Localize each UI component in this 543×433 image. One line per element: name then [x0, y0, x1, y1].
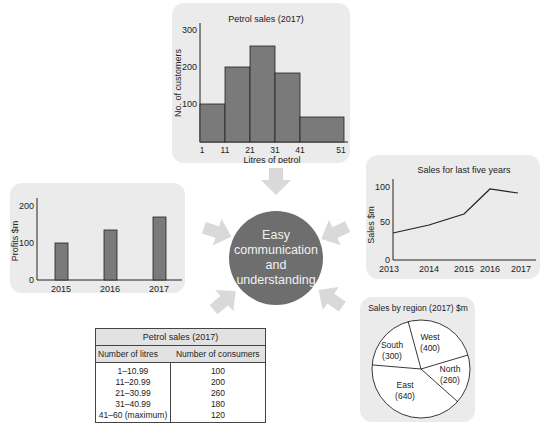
x-tick: 2016: [100, 284, 120, 293]
pie-label-west: West: [420, 332, 440, 342]
histogram-bar: [250, 46, 275, 142]
x-tick: 2016: [480, 264, 500, 274]
line-chart-title: Sales for last five years: [417, 165, 511, 175]
table-header-litres: Number of litres: [96, 346, 171, 363]
y-tick: 100: [19, 238, 34, 248]
hub-line: communication: [234, 243, 318, 258]
line-chart-ylabel: Sales $m: [366, 206, 376, 244]
bar-chart-panel: 0 100 200 Profits $m 2015 2016 2017: [10, 183, 185, 293]
hub-line: and: [266, 258, 287, 273]
histogram-xlabel: Litres of petrol: [243, 155, 300, 163]
pie-value-west: (400): [420, 343, 440, 353]
histogram-bar: [300, 117, 344, 142]
y-tick: 0: [29, 275, 34, 285]
bar-2016: [104, 230, 117, 280]
table-cell: 200: [170, 377, 265, 388]
y-tick: 50: [380, 217, 390, 227]
table-row: 41–60 (maximum) 120: [96, 410, 266, 423]
table-row: 1–10.99 100: [96, 363, 266, 377]
x-tick: 11: [221, 145, 230, 155]
hub-line: understanding: [236, 273, 315, 288]
histogram-bar: [200, 104, 225, 142]
pie-value-north: (260): [440, 375, 460, 385]
histogram-panel: Petrol sales (2017) 100 200 300 No. of c…: [172, 3, 350, 163]
pie-label-north: North: [440, 364, 461, 374]
central-hub: Easy communication and understanding: [229, 211, 323, 305]
y-tick: 100: [182, 99, 197, 109]
histogram-ylabel: No. of customers: [173, 48, 183, 117]
histogram-chart: Petrol sales (2017) 100 200 300 No. of c…: [172, 3, 350, 163]
pie-value-south: (300): [382, 351, 402, 361]
x-tick: 2015: [51, 284, 71, 293]
pie-label-east: East: [396, 380, 414, 390]
sales-line: [393, 189, 518, 233]
histogram-bar: [225, 67, 250, 142]
petrol-sales-table: Petrol sales (2017) Number of litres Num…: [95, 328, 266, 423]
table-cell: 180: [170, 399, 265, 410]
table-cell: 21–30.99: [96, 388, 171, 399]
line-chart: Sales for last five years 0 50 100 Sales…: [366, 155, 540, 279]
table-header-consumers: Number of consumers: [170, 346, 265, 363]
bar-2017: [153, 217, 166, 280]
arrow-down-icon: [261, 168, 291, 195]
table-cell: 11–20.99: [96, 377, 171, 388]
table-cell: 260: [170, 388, 265, 399]
pie-chart-title: Sales by region (2017) $m: [368, 303, 468, 313]
y-tick: 200: [19, 201, 34, 211]
x-tick: 2014: [419, 264, 439, 274]
table-cell: 41–60 (maximum): [96, 410, 171, 423]
pie-chart: Sales by region (2017) $m West (400) Nor…: [360, 297, 475, 422]
table-title: Petrol sales (2017): [96, 329, 266, 346]
hub-line: Easy: [262, 228, 290, 243]
x-tick: 2013: [379, 264, 399, 274]
bar-2015: [55, 243, 68, 280]
x-tick: 2015: [454, 264, 474, 274]
x-tick: 2017: [149, 284, 169, 293]
table-cell: 120: [170, 410, 265, 423]
bar-chart-ylabel: Profits $m: [10, 221, 20, 262]
pie-label-south: South: [381, 340, 403, 350]
x-tick: 1: [200, 145, 205, 155]
x-tick: 31: [270, 145, 280, 155]
table-row: 21–30.99 260: [96, 388, 266, 399]
x-tick: 21: [245, 145, 255, 155]
table-cell: 100: [170, 363, 265, 377]
table-cell: 31–40.99: [96, 399, 171, 410]
pie-chart-panel: Sales by region (2017) $m West (400) Nor…: [360, 297, 475, 422]
arrow-up-left-icon: [311, 279, 351, 319]
table-row: 11–20.99 200: [96, 377, 266, 388]
x-tick: 2017: [511, 264, 531, 274]
y-tick: 100: [375, 182, 390, 192]
x-tick: 41: [295, 145, 305, 155]
y-tick: 300: [182, 25, 197, 35]
bar-chart: 0 100 200 Profits $m 2015 2016 2017: [10, 183, 185, 293]
histogram-title: Petrol sales (2017): [228, 14, 304, 24]
table-row: 31–40.99 180: [96, 399, 266, 410]
histogram-bar: [275, 73, 300, 142]
y-tick: 200: [182, 62, 197, 72]
line-chart-panel: Sales for last five years 0 50 100 Sales…: [366, 155, 540, 279]
x-tick: 51: [336, 145, 346, 155]
table-cell: 1–10.99: [96, 363, 171, 377]
pie-value-east: (640): [395, 391, 415, 401]
